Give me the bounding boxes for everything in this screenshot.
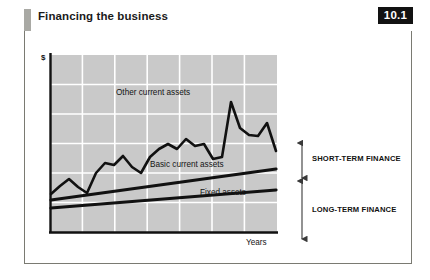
series-label-other-current-assets: Other current assets	[116, 88, 190, 97]
figure-header: Financing the business 10.1	[24, 8, 412, 31]
short-term-finance-label: SHORT-TERM FINANCE	[312, 154, 401, 163]
series-label-fixed-assets: Fixed assets	[200, 188, 246, 197]
series-label-basic-current-assets: Basic current assets	[150, 160, 224, 169]
long-term-finance-label: LONG-TERM FINANCE	[312, 205, 396, 214]
figure-card: Financing the business 10.1	[24, 8, 412, 264]
long-term-finance-bracket: LONG-TERM FINANCE	[302, 181, 396, 239]
short-term-finance-bracket: SHORT-TERM FINANCE	[302, 143, 401, 178]
figure-number-badge: 10.1	[378, 7, 413, 24]
figure-title: Financing the business	[38, 10, 168, 22]
title-accent-bar	[24, 9, 31, 31]
y-axis-label: $	[41, 53, 46, 62]
financing-chart: $ Other current assets Basic current ass…	[24, 30, 412, 264]
x-axis-label: Years	[246, 238, 267, 247]
chart-area: $ Other current assets Basic current ass…	[24, 30, 412, 264]
